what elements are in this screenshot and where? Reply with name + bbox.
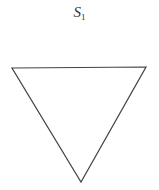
inverted-triangle bbox=[12, 67, 146, 182]
triangle-diagram bbox=[0, 0, 159, 190]
